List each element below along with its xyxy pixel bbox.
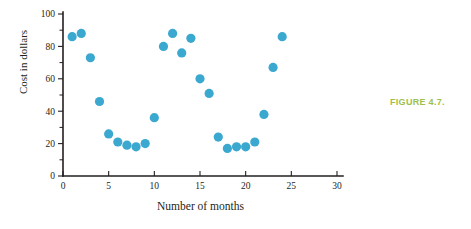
x-tick-label-15: 15 [195,181,205,191]
data-point [113,137,122,146]
y-tick-label-60: 60 [46,74,56,84]
y-tick-label-40: 40 [46,107,56,117]
data-point [104,129,113,138]
y-tick-label-0: 0 [50,171,55,181]
data-point [122,141,131,150]
data-point [232,142,241,151]
data-point [241,142,250,151]
x-tick-label-0: 0 [61,181,66,191]
scatter-chart: 051015202530020406080100 Cost in dollars… [0,0,345,229]
data-point [95,97,104,106]
data-point [86,53,95,62]
data-point [259,110,268,119]
data-point [268,63,277,72]
x-tick-label-10: 10 [150,181,160,191]
data-point [77,29,86,38]
y-tick-label-100: 100 [41,9,56,19]
data-point [223,144,232,153]
data-point [214,133,223,142]
data-point [205,89,214,98]
y-tick-label-80: 80 [46,42,56,52]
data-point [131,142,140,151]
ticks-group [58,14,337,176]
data-point [278,32,287,41]
axes-group [63,12,343,176]
y-axis-title: Cost in dollars [17,2,29,122]
data-point [250,137,259,146]
y-tick-label-20: 20 [46,139,56,149]
data-point [168,29,177,38]
x-axis-title: Number of months [63,200,338,212]
data-point [68,32,77,41]
plot-svg: 051015202530020406080100 [0,0,345,229]
data-point [177,48,186,57]
data-point [141,139,150,148]
x-tick-label-5: 5 [106,181,111,191]
x-tick-label-20: 20 [241,181,251,191]
x-tick-label-30: 30 [332,181,342,191]
figure-page: 051015202530020406080100 Cost in dollars… [0,0,471,229]
data-point [159,42,168,51]
x-tick-label-25: 25 [287,181,297,191]
data-point [186,34,195,43]
data-point [195,74,204,83]
figure-caption: FIGURE 4.7. [390,97,445,107]
data-points-group [68,29,287,153]
data-point [150,113,159,122]
